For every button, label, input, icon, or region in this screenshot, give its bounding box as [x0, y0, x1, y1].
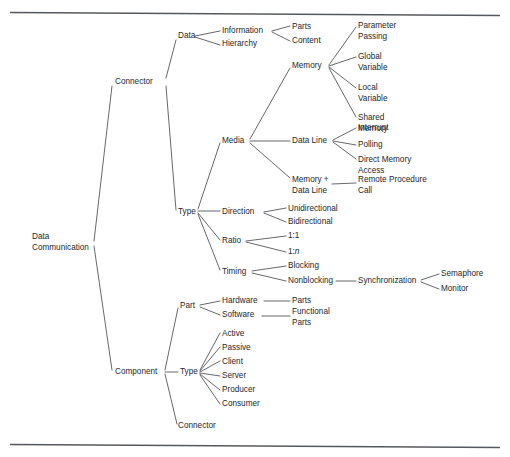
node-label-rpc-line2[interactable]: Call	[358, 186, 372, 195]
tree-node-labels: DataCommunicationConnectorComponentDataT…	[32, 21, 484, 430]
edge-root-to-connector	[94, 86, 112, 241]
edge-type-conn-to-ratio	[198, 213, 220, 240]
node-label-data[interactable]: Data	[178, 31, 196, 40]
edge-ratio-to-ratio-1-n	[246, 242, 286, 252]
edge-media-to-memory-dataline	[250, 143, 290, 178]
edge-type-conn-to-media	[198, 143, 220, 209]
horizontal-rules	[10, 13, 500, 448]
node-label-bidirectional[interactable]: Bidirectional	[288, 217, 333, 226]
edge-synchronization-to-semaphore	[421, 274, 439, 280]
node-label-media[interactable]: Media	[222, 136, 245, 145]
edge-memory-dataline-to-rpc	[332, 183, 356, 184]
node-label-type-conn[interactable]: Type	[178, 207, 196, 216]
edge-memory-to-param-passing	[329, 27, 356, 65]
edge-information-to-content	[272, 32, 290, 41]
node-label-hierarchy[interactable]: Hierarchy	[222, 39, 258, 48]
node-label-nonblocking[interactable]: Nonblocking	[288, 276, 334, 285]
edge-type-comp-to-producer	[200, 374, 220, 390]
edge-type-conn-to-timing	[198, 214, 220, 270]
edge-data-to-hierarchy	[195, 37, 220, 45]
node-label-parts-hw[interactable]: Parts	[292, 296, 311, 305]
edge-timing-to-nonblocking	[252, 273, 286, 281]
node-label-ratio-1-1[interactable]: 1:1	[288, 231, 300, 240]
node-label-memory-dataline-line2[interactable]: Data Line	[292, 186, 327, 195]
node-label-data-line[interactable]: Data Line	[292, 136, 327, 145]
node-label-synchronization[interactable]: Synchronization	[358, 276, 417, 285]
node-label-content[interactable]: Content	[292, 36, 321, 45]
edge-root-to-component	[94, 246, 112, 370]
node-label-unidirectional[interactable]: Unidirectional	[288, 204, 338, 213]
top-rule	[10, 13, 500, 16]
edge-direction-to-bidirectional	[264, 213, 286, 222]
edge-component-to-part	[165, 308, 178, 370]
node-label-direction[interactable]: Direction	[222, 207, 255, 216]
edge-data-line-to-interrupt	[333, 128, 356, 140]
node-label-part[interactable]: Part	[180, 301, 196, 310]
node-label-dma[interactable]: Direct Memory	[358, 155, 412, 164]
edge-component-to-connector-leaf	[165, 374, 177, 424]
node-label-memory[interactable]: Memory	[292, 61, 322, 70]
node-label-polling[interactable]: Polling	[358, 140, 383, 149]
node-label-producer[interactable]: Producer	[222, 385, 255, 394]
taxonomy-figure: DataCommunicationConnectorComponentDataT…	[0, 0, 510, 457]
edge-memory-to-local-var	[329, 67, 356, 88]
node-label-ratio-1-n-italic-part: n	[295, 247, 300, 256]
node-label-memory-dataline[interactable]: Memory +	[292, 175, 329, 184]
tree-diagram-canvas: DataCommunicationConnectorComponentDataT…	[0, 0, 510, 457]
node-label-ratio-1-n[interactable]: 1:n	[288, 247, 300, 256]
node-label-param-passing-line2[interactable]: Passing	[358, 32, 388, 41]
node-label-information[interactable]: Information	[222, 26, 263, 35]
edge-information-to-parts-info	[272, 26, 290, 31]
node-label-type-comp[interactable]: Type	[180, 367, 198, 376]
node-label-server[interactable]: Server	[222, 371, 246, 380]
edge-timing-to-blocking	[252, 266, 286, 271]
node-label-blocking[interactable]: Blocking	[288, 261, 319, 270]
node-label-parts-info[interactable]: Parts	[292, 22, 311, 31]
bottom-rule	[10, 445, 500, 448]
node-label-functional-parts-line2[interactable]: Parts	[292, 318, 311, 327]
edge-type-comp-to-active	[200, 333, 220, 370]
edge-part-to-hardware	[200, 301, 220, 305]
node-label-root-line2[interactable]: Communication	[32, 243, 89, 252]
node-label-root[interactable]: Data	[32, 232, 50, 241]
node-label-global-var[interactable]: Global	[358, 52, 382, 61]
edge-connector-to-data	[166, 40, 176, 78]
edge-direction-to-unidirectional	[264, 208, 286, 212]
node-label-semaphore[interactable]: Semaphore	[441, 269, 484, 278]
edge-type-comp-to-passive	[200, 347, 220, 371]
node-label-functional-parts[interactable]: Functional	[292, 307, 330, 316]
edge-memory-to-global-var	[329, 57, 356, 66]
edge-memory-to-shared-memory	[329, 68, 356, 117]
node-label-consumer[interactable]: Consumer	[222, 399, 260, 408]
edge-connector-to-type-conn	[166, 86, 176, 210]
node-label-rpc[interactable]: Remote Procedure	[358, 175, 427, 184]
node-label-interrupt[interactable]: Interrupt	[358, 123, 389, 132]
node-label-local-var-line2[interactable]: Variable	[358, 94, 388, 103]
node-label-param-passing[interactable]: Parameter	[358, 21, 396, 30]
edge-ratio-to-ratio-1-1	[246, 236, 286, 241]
node-label-active[interactable]: Active	[222, 329, 245, 338]
node-label-global-var-line2[interactable]: Variable	[358, 63, 388, 72]
node-label-connector[interactable]: Connector	[115, 77, 153, 86]
edge-media-to-memory	[250, 68, 290, 139]
node-label-shared-memory[interactable]: Shared	[358, 113, 385, 122]
node-label-software[interactable]: Software	[222, 310, 255, 319]
node-label-local-var[interactable]: Local	[358, 83, 378, 92]
edge-data-to-information	[195, 31, 220, 36]
edge-type-comp-to-client	[200, 361, 220, 372]
node-label-client[interactable]: Client	[222, 357, 244, 366]
edge-synchronization-to-monitor	[421, 282, 439, 289]
edge-type-comp-to-server	[200, 373, 220, 376]
node-label-connector-leaf[interactable]: Connector	[178, 421, 216, 430]
node-label-dma-line2[interactable]: Access	[358, 166, 384, 175]
node-label-monitor[interactable]: Monitor	[441, 284, 469, 293]
node-label-timing[interactable]: Timing	[222, 267, 247, 276]
node-label-ratio[interactable]: Ratio	[222, 236, 242, 245]
edge-type-comp-to-consumer	[200, 375, 220, 404]
edge-part-to-software	[200, 307, 220, 315]
node-label-hardware[interactable]: Hardware	[222, 296, 258, 305]
node-label-component[interactable]: Component	[115, 367, 158, 376]
node-label-passive[interactable]: Passive	[222, 343, 251, 352]
